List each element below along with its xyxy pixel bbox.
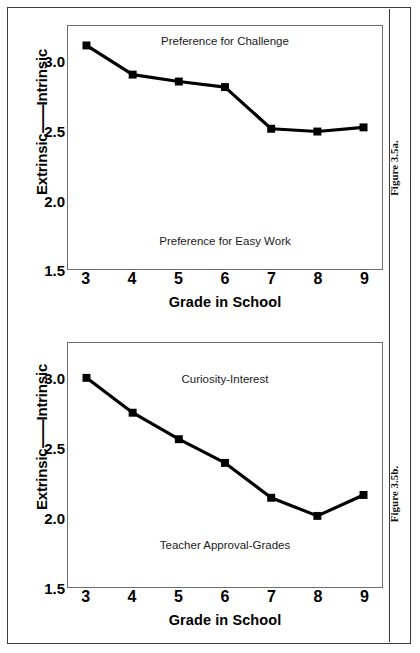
x-tick-Figure35b-6: 6 [221, 589, 230, 605]
y-tick-b-1.5: 1.5 [31, 581, 65, 596]
y-tick-a-3.0: 3.0 [31, 54, 65, 69]
x-tick-Figure35a-8: 8 [313, 271, 322, 287]
figure-caption-a: Figure 3.5a. [388, 113, 404, 223]
region-label-b-bottom: Teacher Approval-Grades [68, 539, 382, 551]
x-tick-labels-a: 3456789 [67, 271, 383, 293]
region-label-a-top: Preference for Challenge [68, 35, 382, 47]
y-tick-labels-b: 3.0 2.5 2.0 1.5 [27, 326, 65, 640]
region-label-a-bottom: Preference for Easy Work [68, 235, 382, 247]
y-tick-b-3.0: 3.0 [31, 371, 65, 386]
y-tick-a-2.5: 2.5 [31, 124, 65, 139]
x-tick-Figure35a-5: 5 [174, 271, 183, 287]
x-tick-Figure35a-4: 4 [128, 271, 137, 287]
y-tick-a-2.0: 2.0 [31, 194, 65, 209]
y-tick-b-2.0: 2.0 [31, 511, 65, 526]
x-tick-labels-b: 3456789 [67, 589, 383, 611]
x-tick-Figure35a-6: 6 [221, 271, 230, 287]
x-axis-title-a: Grade in School [67, 294, 383, 310]
plot-area-b: Curiosity-Interest Teacher Approval-Grad… [67, 342, 383, 588]
plot-area-a: Preference for Challenge Preference for … [67, 25, 383, 270]
x-tick-Figure35a-7: 7 [267, 271, 276, 287]
content-frame: Extrinsic--------Intrinsic 3.0 2.5 2.0 1… [9, 9, 390, 642]
line-series-a [68, 26, 382, 269]
y-tick-b-2.5: 2.5 [31, 441, 65, 456]
x-tick-Figure35b-3: 3 [81, 589, 90, 605]
region-label-b-top: Curiosity-Interest [68, 373, 382, 385]
x-tick-Figure35b-4: 4 [128, 589, 137, 605]
chart-panel-a: Extrinsic--------Intrinsic 3.0 2.5 2.0 1… [9, 11, 390, 324]
x-tick-Figure35b-8: 8 [313, 589, 322, 605]
y-tick-a-1.5: 1.5 [31, 263, 65, 278]
x-tick-Figure35a-3: 3 [81, 271, 90, 287]
y-tick-labels-a: 3.0 2.5 2.0 1.5 [27, 11, 65, 324]
x-tick-Figure35a-9: 9 [360, 271, 369, 287]
chart-panel-b: Extrinsic--------Intrinsic 3.0 2.5 2.0 1… [9, 326, 390, 640]
x-tick-Figure35b-5: 5 [174, 589, 183, 605]
x-axis-title-b: Grade in School [67, 612, 383, 628]
x-tick-Figure35b-7: 7 [267, 589, 276, 605]
page-border-frame: Extrinsic--------Intrinsic 3.0 2.5 2.0 1… [7, 7, 411, 644]
x-tick-Figure35b-9: 9 [360, 589, 369, 605]
figure-caption-b: Figure 3.5b. [388, 439, 404, 549]
